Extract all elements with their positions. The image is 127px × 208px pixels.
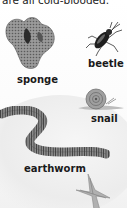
- beetle-label: beetle: [88, 58, 124, 69]
- sponge-label: sponge: [17, 74, 58, 85]
- beetle-icon: [84, 20, 124, 58]
- starfish-icon: [62, 170, 126, 208]
- textbook-page: are all cold-blooded. sponge beetle: [0, 0, 127, 208]
- earthworm-icon: [0, 106, 110, 162]
- caption-text: are all cold-blooded.: [2, 0, 109, 6]
- sponge-icon: [2, 14, 58, 72]
